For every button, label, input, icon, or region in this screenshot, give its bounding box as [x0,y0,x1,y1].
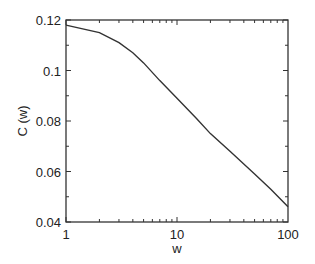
x-tick-label: 1 [62,227,69,242]
x-axis-label: w [171,241,182,256]
x-tick-labels: 110100 [62,227,298,242]
y-tick-label: 0.1 [43,64,61,79]
y-tick-labels: 0.040.060.080.10.12 [36,13,61,230]
y-tick-label: 0.04 [36,215,61,230]
y-tick-label: 0.12 [36,13,61,28]
y-tick-label: 0.06 [36,165,61,180]
y-tick-label: 0.08 [36,114,61,129]
line-chart: 0.040.060.080.10.12 110100 w C (w) [0,0,315,264]
x-tick-label: 100 [277,227,299,242]
data-curve [66,25,288,207]
x-tick-label: 10 [170,227,184,242]
y-axis-label: C (w) [15,105,30,136]
plot-frame [66,20,288,222]
axis-ticks [66,20,288,222]
